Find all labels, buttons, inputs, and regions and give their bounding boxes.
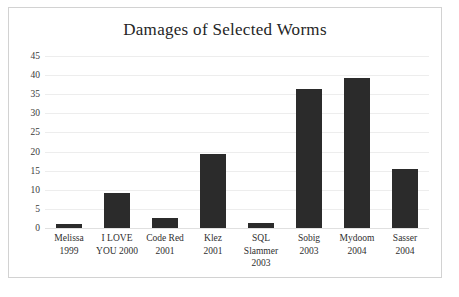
bar[interactable] (392, 169, 418, 228)
x-axis-label-line: I LOVE (93, 232, 141, 245)
x-axis-label: Code Red2001 (141, 232, 189, 270)
y-tick-label: 25 (31, 127, 41, 137)
y-tick-label: 15 (31, 166, 41, 176)
bar-slot (285, 56, 333, 228)
x-axis-label: Sasser2004 (381, 232, 429, 270)
x-axis-label-line: Sasser (381, 232, 429, 245)
bar-series (45, 56, 429, 228)
bar[interactable] (152, 218, 178, 228)
bar-slot (381, 56, 429, 228)
x-axis-label-line: Sobig (285, 232, 333, 245)
bar[interactable] (200, 154, 226, 228)
x-axis-label-line: 2003 (237, 257, 285, 270)
bar-slot (189, 56, 237, 228)
y-tick-label: 5 (35, 204, 40, 214)
y-tick-label: 35 (31, 89, 41, 99)
chart-container: Damages of Selected Worms 05101520253035… (8, 7, 442, 278)
bar-slot (93, 56, 141, 228)
x-axis-label-line: SQL (237, 232, 285, 245)
bar[interactable] (104, 193, 130, 228)
x-axis-label-line: Klez (189, 232, 237, 245)
x-axis-label-line: YOU 2000 (93, 245, 141, 258)
gridline-0 (45, 228, 429, 229)
bar[interactable] (296, 89, 322, 229)
page-edge-artifact (150, 283, 450, 291)
x-axis-label: Sobig2003 (285, 232, 333, 270)
bar-slot (45, 56, 93, 228)
x-axis-label-line: 2003 (285, 245, 333, 258)
chart-title: Damages of Selected Worms (9, 20, 441, 40)
x-axis-label-line: 2004 (381, 245, 429, 258)
x-axis-label-line: Melissa (45, 232, 93, 245)
bar-slot (333, 56, 381, 228)
x-axis-label-line: Mydoom (333, 232, 381, 245)
bar[interactable] (248, 223, 274, 228)
y-tick-label: 10 (31, 185, 41, 195)
x-axis-label-line: Slammer (237, 245, 285, 258)
y-tick-label: 20 (31, 147, 41, 157)
x-axis-label-line: 2001 (141, 245, 189, 258)
x-axis-label-line: Code Red (141, 232, 189, 245)
y-tick-label: 30 (31, 108, 41, 118)
x-axis-label: Mydoom2004 (333, 232, 381, 270)
y-tick-label: 45 (31, 51, 41, 61)
bar[interactable] (56, 224, 82, 228)
bar-slot (237, 56, 285, 228)
bar-slot (141, 56, 189, 228)
y-tick-label: 0 (35, 223, 40, 233)
plot-area: 051015202530354045 (45, 56, 429, 228)
x-axis-label-line: 2004 (333, 245, 381, 258)
x-axis-label: I LOVEYOU 2000 (93, 232, 141, 270)
bar[interactable] (344, 78, 370, 228)
x-axis-label-line: 1999 (45, 245, 93, 258)
x-axis-label: SQLSlammer2003 (237, 232, 285, 270)
y-tick-label: 40 (31, 70, 41, 80)
x-axis-label: Melissa1999 (45, 232, 93, 270)
x-axis-label-line: 2001 (189, 245, 237, 258)
x-axis-label: Klez2001 (189, 232, 237, 270)
x-axis-labels: Melissa1999I LOVEYOU 2000Code Red2001Kle… (45, 232, 429, 270)
